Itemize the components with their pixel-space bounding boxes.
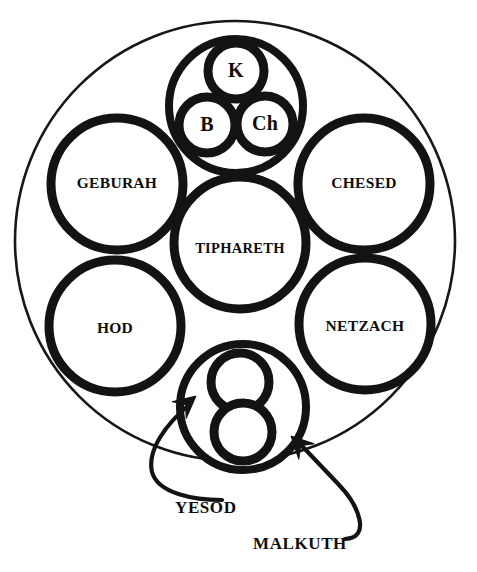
chokmah-label: Ch xyxy=(252,112,278,134)
kether-label: K xyxy=(228,59,244,81)
binah-label: B xyxy=(200,113,214,135)
sephirah-netzach[interactable]: NETZACH xyxy=(299,258,431,390)
malkuth-leader-line xyxy=(298,442,360,539)
sephirah-geburah[interactable]: GEBURAH xyxy=(51,118,183,250)
sephirah-tiphareth[interactable]: TIPHARETH xyxy=(174,177,306,309)
sephirah-kether[interactable]: K xyxy=(208,43,264,99)
sephirah-binah[interactable]: B xyxy=(179,97,235,153)
sephirah-chokmah[interactable]: Ch xyxy=(237,96,293,152)
tiphareth-label: TIPHARETH xyxy=(195,240,285,256)
netzach-label: NETZACH xyxy=(326,317,405,334)
sephirah-hod[interactable]: HOD xyxy=(49,260,181,392)
chesed-label: CHESED xyxy=(331,174,397,191)
yesod-callout-label: YESOD xyxy=(175,498,237,517)
hod-label: HOD xyxy=(97,319,133,336)
geburah-label: GEBURAH xyxy=(77,174,157,191)
sephiroth-diagram-canvas: K B Ch GEBURAH CHESED TIPHARE xyxy=(0,0,477,572)
sephirah-chesed[interactable]: CHESED xyxy=(298,118,430,250)
lower-cluster-group xyxy=(211,353,272,461)
malkuth-circle[interactable] xyxy=(214,403,272,461)
sephiroth-diagram: K B Ch GEBURAH CHESED TIPHARE xyxy=(0,0,477,572)
malkuth-callout-label: MALKUTH xyxy=(253,534,347,553)
